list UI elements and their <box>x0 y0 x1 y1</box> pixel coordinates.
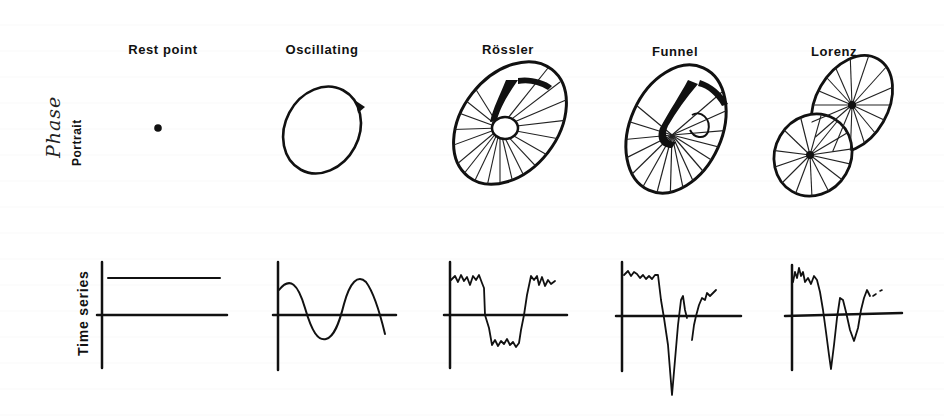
time-series-rossler <box>444 262 567 368</box>
time-series-rest-point <box>97 262 227 368</box>
phase-portrait-lorenz <box>759 41 909 210</box>
time-series-funnel <box>616 262 741 395</box>
phase-portrait-rossler <box>430 40 589 206</box>
time-series-lorenz <box>785 265 902 370</box>
phase-portrait-funnel <box>607 49 746 209</box>
figure-drawing <box>0 0 944 416</box>
phase-portrait-oscillating <box>268 73 376 187</box>
time-series-oscillating <box>273 262 396 370</box>
phase-portrait-rest-point <box>154 124 162 132</box>
